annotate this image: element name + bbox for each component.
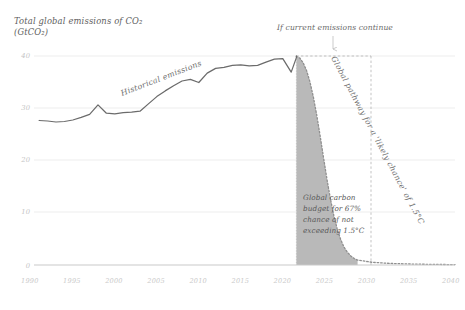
y-tick-0: 0 xyxy=(26,262,31,270)
historical-emissions-label: Historical emissions xyxy=(119,59,203,99)
emissions-chart-svg: 40 30 20 10 0 1990 1995 2000 2005 2010 xyxy=(0,0,465,310)
y-tick-20: 20 xyxy=(20,156,30,164)
x-tick-2040: 2040 xyxy=(441,277,460,285)
x-tick-1990: 1990 xyxy=(21,277,39,285)
chart-title-line1: Total global emissions of CO₂ xyxy=(14,16,143,26)
current-emissions-label: If current emissions continue xyxy=(276,23,393,32)
x-tick-2005: 2005 xyxy=(146,277,165,285)
y-tick-40: 40 xyxy=(20,52,30,60)
x-tick-1995: 1995 xyxy=(63,277,81,285)
chart-title: Total global emissions of CO₂ (GtCO₂) xyxy=(14,16,143,37)
x-tick-2015: 2015 xyxy=(231,277,250,285)
x-tick-2030: 2030 xyxy=(357,277,376,285)
carbon-budget-line-2: budget for 67% xyxy=(303,204,361,213)
carbon-budget-line-3: chance of not xyxy=(303,215,354,224)
x-tick-2010: 2010 xyxy=(188,277,207,285)
carbon-budget-line-1: Global carbon xyxy=(303,193,356,202)
x-tick-2025: 2025 xyxy=(315,277,334,285)
gridlines xyxy=(34,56,455,212)
chart-container: 40 30 20 10 0 1990 1995 2000 2005 2010 xyxy=(0,0,465,310)
historical-emissions-line xyxy=(39,56,296,122)
x-tick-2035: 2035 xyxy=(399,277,418,285)
x-axis-ticks: 1990 1995 2000 2005 2010 2015 2020 2025 … xyxy=(21,277,460,285)
x-tick-2000: 2000 xyxy=(104,277,123,285)
x-tick-2020: 2020 xyxy=(273,277,292,285)
chart-title-line2: (GtCO₂) xyxy=(14,27,48,37)
y-axis-ticks: 40 30 20 10 0 xyxy=(20,52,30,270)
y-tick-30: 30 xyxy=(21,104,30,112)
carbon-budget-line-4: exceeding 1.5°C xyxy=(303,226,365,235)
y-tick-10: 10 xyxy=(21,208,30,216)
